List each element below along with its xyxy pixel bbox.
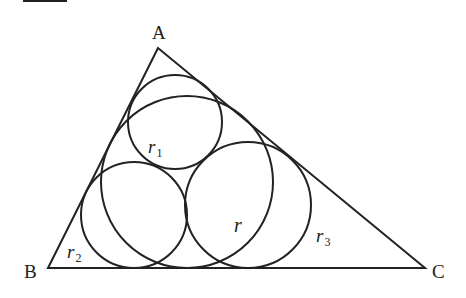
vertex-label-b: B [24,261,37,282]
label-r3: r3 [316,225,330,249]
circle-r2 [81,162,187,268]
circle-r3 [185,142,311,268]
incircle-r [101,96,273,268]
label-r: r [234,214,242,236]
vertex-label-a: A [152,22,166,43]
triangle-circles-diagram: A B C r1 r2 r r3 [0,0,466,298]
label-r1: r1 [148,136,162,160]
circle-r1 [128,75,222,169]
vertex-label-c: C [432,261,445,282]
label-r2: r2 [67,241,81,265]
